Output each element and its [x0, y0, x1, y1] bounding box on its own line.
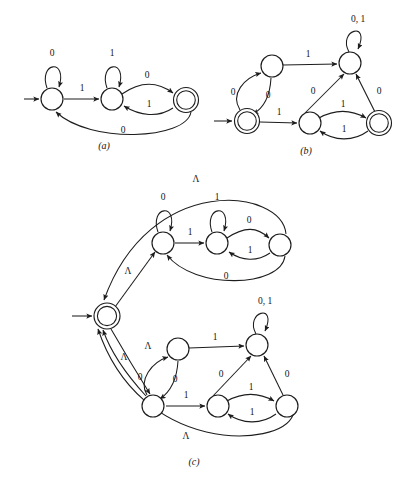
- edge-c-s-a0: [115, 252, 155, 307]
- caption-a: (a): [98, 140, 110, 152]
- state-c-a1: [206, 232, 228, 254]
- edge-b-p1-p2: [283, 64, 337, 65]
- edge-c-b0-s: [103, 330, 146, 396]
- edge-c-b2-b2: [253, 313, 268, 334]
- state-b-p2: [339, 52, 361, 74]
- state-b-p4-inner: [370, 114, 389, 133]
- edge-b-p3-p4: [319, 111, 366, 118]
- automata-svg: 0 1 1 0 1 0 (a) 0 0 1: [0, 0, 400, 478]
- edge-label-c-8: Λ: [193, 174, 200, 184]
- edge-label-b-6: 0: [377, 86, 382, 96]
- edge-b-p4-p2: [356, 74, 375, 112]
- edge-label-b-8: 1: [342, 124, 347, 134]
- state-c-b4: [276, 395, 298, 417]
- edge-label-c-13: 1: [184, 390, 189, 400]
- edge-a-q1-q2: [122, 84, 173, 94]
- edge-label-c-17: 1: [250, 407, 255, 417]
- edge-label-b-7: 1: [341, 99, 346, 109]
- edge-label-c-20: Λ: [183, 431, 190, 441]
- edge-label-b-1: 0: [231, 87, 236, 97]
- state-a-q2-inner: [177, 91, 196, 110]
- edge-c-a0-a0: [156, 211, 171, 232]
- automata-figure: 0 1 1 0 1 0 (a) 0 0 1: [0, 0, 400, 478]
- edge-label-c-1: Λ: [125, 266, 132, 276]
- edge-label-c-9: Λ: [145, 341, 152, 351]
- edge-a-q0-q0: [45, 67, 60, 88]
- edge-label-c-3: 1: [188, 227, 193, 237]
- edge-c-a1-a2: [227, 229, 269, 238]
- state-c-a0: [152, 232, 174, 254]
- diagram-a: 0 1 1 0 1 0 (a): [24, 48, 199, 152]
- edge-label-c-18: 0, 1: [258, 296, 273, 306]
- state-c-b0: [142, 395, 164, 417]
- edge-c-a1-a1: [210, 211, 225, 232]
- state-b-p3: [299, 112, 321, 134]
- state-c-b3: [207, 395, 229, 417]
- edge-label-c-2: 0: [161, 192, 166, 202]
- diagram-c: Λ 0 1 1 0 1 0 Λ Λ 0 0 1: [72, 174, 298, 468]
- edge-c-b1-b2: [189, 346, 244, 348]
- edge-label-a-5: 1: [147, 99, 152, 109]
- edge-label-b-9: 0, 1: [351, 14, 366, 24]
- edge-label-c-14: 0: [219, 369, 224, 379]
- edge-label-c-10: 0: [138, 372, 143, 382]
- edge-a-q1-q1: [105, 67, 120, 88]
- edge-label-a-4: 0: [145, 70, 150, 80]
- edge-label-c-16: 1: [249, 382, 254, 392]
- edge-label-b-5: 0: [311, 86, 316, 96]
- edge-label-a-2: 1: [80, 83, 85, 93]
- edge-c-b4-b2: [264, 356, 283, 395]
- state-c-b2: [246, 334, 268, 356]
- state-c-b1: [167, 338, 189, 360]
- state-b-p1: [261, 55, 283, 77]
- state-a-q1: [101, 88, 123, 110]
- edge-label-c-7: 0: [224, 271, 229, 281]
- edge-label-c-6: 1: [248, 245, 253, 255]
- edge-label-b-2: 0: [266, 90, 271, 100]
- edge-label-c-12: 1: [213, 332, 218, 342]
- caption-b: (b): [300, 145, 312, 157]
- diagram-b: 0 0 1 1 0 0 1 1 0, 1 (b): [214, 14, 392, 157]
- edge-c-b3-b4: [227, 394, 274, 401]
- caption-c: (c): [188, 456, 200, 468]
- edge-c-b0-b1: [144, 357, 168, 395]
- edge-label-a-6: 0: [121, 125, 126, 135]
- edge-b-p0-p3: [260, 122, 297, 123]
- state-c-a2: [269, 234, 291, 256]
- edge-label-a-3: 1: [110, 48, 115, 58]
- state-a-q0: [41, 88, 63, 110]
- edge-label-b-4: 1: [277, 107, 282, 117]
- edge-label-c-19: Λ: [121, 352, 128, 362]
- state-c-start-inner: [97, 306, 116, 325]
- edge-label-b-3: 1: [306, 49, 311, 59]
- edge-b-p2-p2: [346, 31, 361, 52]
- state-b-p0-inner: [238, 112, 257, 131]
- edge-label-c-11: 0: [173, 374, 178, 384]
- edge-label-c-5: 0: [247, 215, 252, 225]
- edge-label-a-1: 0: [50, 48, 55, 58]
- edge-label-c-15: 0: [285, 369, 290, 379]
- edge-b-p0-p1: [237, 73, 261, 110]
